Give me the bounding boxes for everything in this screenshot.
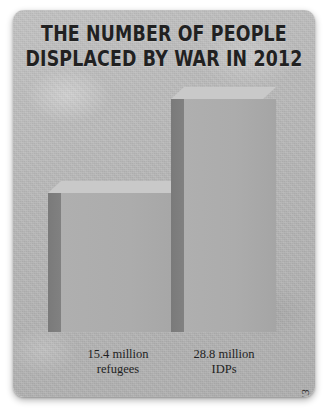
bar-label-idps: 28.8 million IDPs — [171, 347, 277, 377]
bar-label-idps-value: 28.8 million — [193, 347, 254, 361]
infographic-card: THE NUMBER OF PEOPLE DISPLACED BY WAR IN… — [13, 10, 315, 397]
bar-chart: 15.4 million refugees 28.8 million IDPs — [13, 10, 315, 397]
bar-label-refugees-value: 15.4 million — [87, 347, 148, 361]
bar-idps-side-face — [171, 99, 184, 332]
bar-refugees-side-face — [48, 193, 61, 332]
source-note: Source: UN Global Trends 2013 — [299, 389, 311, 397]
bar-idps-front-face — [184, 99, 276, 332]
bar-label-idps-category: IDPs — [171, 362, 277, 377]
bar-refugees-top-face — [48, 181, 187, 193]
bar-refugees — [48, 181, 187, 332]
bar-idps-top-face — [171, 87, 276, 99]
bar-refugees-front-face — [61, 193, 187, 332]
bar-label-refugees-category: refugees — [48, 362, 188, 377]
bar-idps — [171, 87, 276, 332]
bar-label-refugees: 15.4 million refugees — [48, 347, 188, 377]
